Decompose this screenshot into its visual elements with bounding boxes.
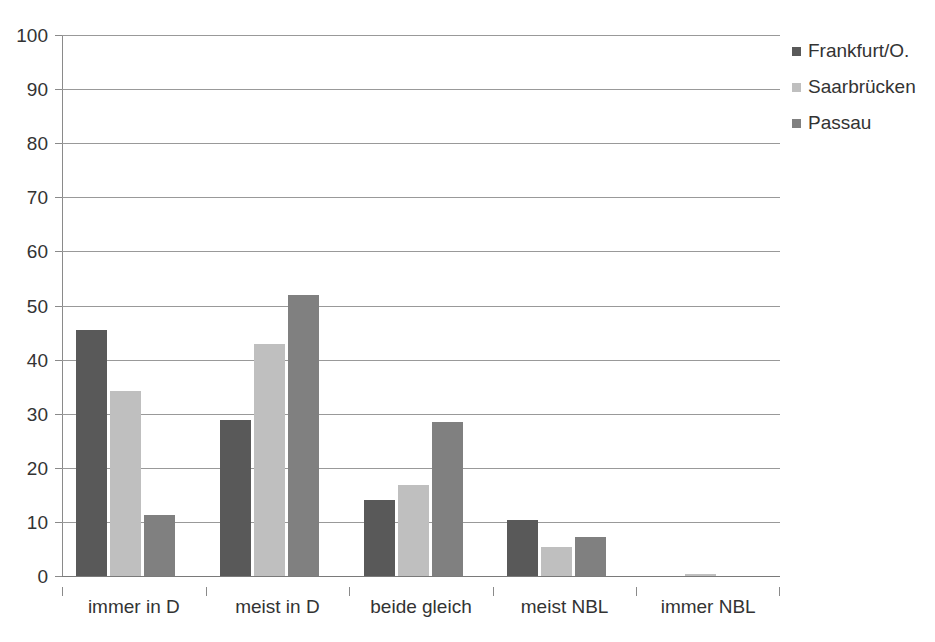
legend-item[interactable]: Passau xyxy=(792,108,935,138)
bar xyxy=(541,547,572,576)
x-axis-label: immer NBL xyxy=(661,596,756,618)
legend-label: Frankfurt/O. xyxy=(808,41,909,61)
x-axis-label: immer in D xyxy=(88,596,180,618)
y-tick-label-10: 10 xyxy=(27,512,48,531)
bar xyxy=(364,500,395,576)
bar xyxy=(432,422,463,576)
bar xyxy=(110,391,141,576)
bar xyxy=(144,515,175,576)
bar xyxy=(220,420,251,576)
plot-area xyxy=(62,35,780,576)
bar-chart: 0102030405060708090100 immer in Dmeist i… xyxy=(0,0,935,642)
y-tickmark-70 xyxy=(55,197,62,198)
y-tick-label-70: 70 xyxy=(27,188,48,207)
bar xyxy=(254,344,285,576)
y-tick-label-90: 90 xyxy=(27,80,48,99)
y-tickmark-100 xyxy=(55,35,62,36)
y-tickmark-60 xyxy=(55,251,62,252)
y-tick-label-0: 0 xyxy=(37,567,48,586)
legend-item[interactable]: Frankfurt/O. xyxy=(792,36,935,66)
gridline-0 xyxy=(62,576,780,577)
bar xyxy=(575,537,606,576)
bar xyxy=(76,330,107,576)
x-axis-label: meist NBL xyxy=(521,596,609,618)
y-tick-label-30: 30 xyxy=(27,404,48,423)
legend-swatch-icon xyxy=(792,83,801,92)
bar-group xyxy=(507,35,606,576)
bar xyxy=(398,485,429,576)
x-tickmark xyxy=(636,587,637,596)
y-axis: 0102030405060708090100 xyxy=(0,0,58,642)
x-tickmark xyxy=(779,587,780,596)
legend-label: Saarbrücken xyxy=(808,77,916,97)
x-tickmark xyxy=(349,587,350,596)
legend-swatch-icon xyxy=(792,119,801,128)
y-tickmark-0 xyxy=(55,576,62,577)
legend-swatch-icon xyxy=(792,47,801,56)
y-tickmark-80 xyxy=(55,143,62,144)
legend-item[interactable]: Saarbrücken xyxy=(792,72,935,102)
y-tick-label-80: 80 xyxy=(27,134,48,153)
bar-group xyxy=(364,35,463,576)
y-tickmark-90 xyxy=(55,89,62,90)
y-tickmark-50 xyxy=(55,306,62,307)
bar-group xyxy=(76,35,175,576)
y-tick-label-40: 40 xyxy=(27,350,48,369)
y-tickmark-20 xyxy=(55,468,62,469)
y-tick-label-60: 60 xyxy=(27,242,48,261)
legend-label: Passau xyxy=(808,113,871,133)
y-tick-label-50: 50 xyxy=(27,296,48,315)
bar xyxy=(685,574,716,576)
y-tick-label-20: 20 xyxy=(27,458,48,477)
y-tickmark-10 xyxy=(55,522,62,523)
bar xyxy=(288,295,319,576)
x-tickmark xyxy=(62,587,63,596)
x-axis-label: beide gleich xyxy=(370,596,471,618)
x-tickmark xyxy=(206,587,207,596)
y-tickmark-40 xyxy=(55,360,62,361)
bar xyxy=(507,520,538,576)
x-axis-labels: immer in Dmeist in Dbeide gleichmeist NB… xyxy=(62,596,780,626)
x-tickmark xyxy=(493,587,494,596)
x-axis-label: meist in D xyxy=(235,596,319,618)
bar-group xyxy=(220,35,319,576)
bar-group xyxy=(651,35,750,576)
y-tick-label-100: 100 xyxy=(16,26,48,45)
chart-legend: Frankfurt/O.SaarbrückenPassau xyxy=(792,36,935,144)
y-tickmark-30 xyxy=(55,414,62,415)
